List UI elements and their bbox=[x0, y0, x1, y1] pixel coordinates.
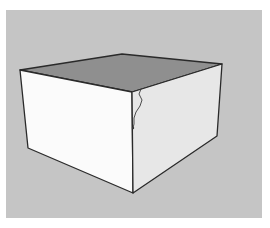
box-left-face[interactable] bbox=[20, 70, 133, 193]
model-canvas[interactable] bbox=[0, 0, 270, 228]
line-endpoint-marker bbox=[132, 127, 134, 129]
